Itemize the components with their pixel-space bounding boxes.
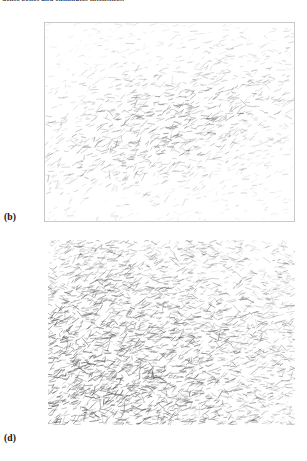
panel-label-b: (b) [4, 212, 16, 222]
figure-panel-d [48, 240, 295, 425]
panel-label-d: (d) [4, 433, 16, 443]
figure-caption-top: dense zones and eliminates intensities. [2, 0, 302, 5]
vector-field-plot-d [48, 240, 295, 425]
vector-field-plot-b [45, 23, 294, 221]
figure-panel-b [44, 22, 295, 222]
